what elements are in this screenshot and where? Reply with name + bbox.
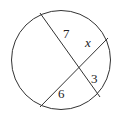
chord-2 [40, 38, 108, 107]
label-seg-7: 7 [63, 26, 70, 41]
chords-diagram: 7 x 3 6 [0, 0, 121, 119]
label-seg-3: 3 [91, 71, 98, 86]
label-seg-x: x [84, 35, 91, 50]
label-seg-6: 6 [58, 86, 65, 101]
